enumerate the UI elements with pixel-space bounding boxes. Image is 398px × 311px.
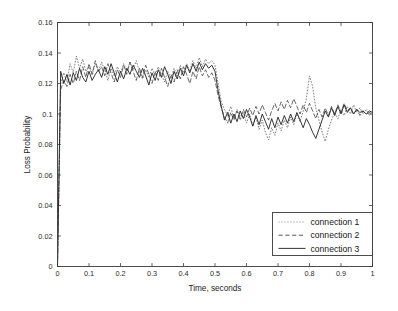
x-tick-label: 0.6 <box>241 269 251 278</box>
y-axis-label: Loss Probability <box>23 115 32 174</box>
x-tick-label: 0.2 <box>115 269 125 278</box>
chart-figure: 00.10.20.30.40.50.60.70.80.91 00.020.040… <box>0 0 398 311</box>
x-tick-label: 1 <box>370 269 374 278</box>
legend-label-3: connection 3 <box>311 244 360 254</box>
y-tick-labels: 00.020.040.060.080.10.120.140.16 <box>38 18 52 271</box>
x-tick-label: 0.8 <box>304 269 314 278</box>
y-tick-label: 0.16 <box>38 18 52 27</box>
y-tick-label: 0 <box>48 262 52 271</box>
x-tick-label: 0.3 <box>147 269 157 278</box>
x-axis-label: Time, seconds <box>189 284 242 293</box>
chart-legend: connection 1connection 2connection 3 <box>273 213 373 256</box>
legend-label-2: connection 2 <box>311 230 360 240</box>
x-tick-label: 0.5 <box>210 269 220 278</box>
plot-canvas: 00.10.20.30.40.50.60.70.80.91 00.020.040… <box>0 0 398 311</box>
x-tick-label: 0 <box>55 269 59 278</box>
x-tick-label: 0.1 <box>84 269 94 278</box>
x-tick-label: 0.7 <box>273 269 283 278</box>
y-tick-label: 0.1 <box>42 110 52 119</box>
x-tick-label: 0.4 <box>178 269 188 278</box>
y-tick-label: 0.04 <box>38 201 52 210</box>
y-tick-label: 0.14 <box>38 49 52 58</box>
y-tick-label: 0.12 <box>38 79 52 88</box>
legend-label-1: connection 1 <box>311 217 360 227</box>
x-tick-labels: 00.10.20.30.40.50.60.70.80.91 <box>55 269 374 278</box>
y-tick-label: 0.08 <box>38 140 52 149</box>
y-tick-label: 0.02 <box>38 232 52 241</box>
x-tick-label: 0.9 <box>336 269 346 278</box>
y-tick-label: 0.06 <box>38 171 52 180</box>
